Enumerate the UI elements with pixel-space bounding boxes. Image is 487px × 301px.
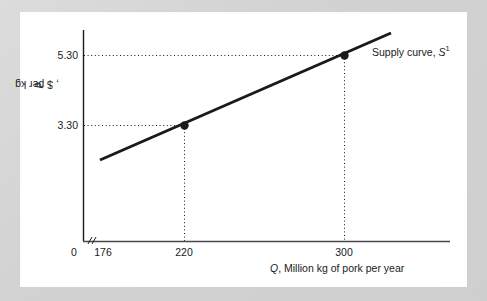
supply-curve-line[interactable] — [100, 33, 391, 160]
x-tick-label-176: 176 — [83, 246, 123, 258]
x-tick-label-220: 220 — [164, 246, 204, 258]
supply-curve-label-text: Supply curve, — [372, 46, 439, 58]
x-axis-title-symbol: Q — [270, 262, 278, 274]
x-axis-title-rest: , Million kg of pork per year — [278, 262, 404, 274]
supply-curve-label-superscript: 1 — [446, 44, 450, 53]
y-tick-label-530: 5.30 — [44, 49, 78, 61]
supply-curve-label-symbol: S — [439, 46, 446, 58]
y-tick-label-330: 3.30 — [44, 119, 78, 131]
axis-break-icon — [88, 237, 96, 244]
plot-area: p, $ per kg 5.30 3.30 0 176 220 300 Q, M… — [0, 0, 487, 301]
y-axis-title-rest: , $ per kg — [15, 79, 59, 91]
figure-screenshot: p, $ per kg 5.30 3.30 0 176 220 300 Q, M… — [0, 0, 487, 301]
x-tick-label-300: 300 — [324, 246, 364, 258]
data-point-300-530[interactable] — [340, 51, 348, 59]
supply-curve-label: Supply curve, S1 — [372, 44, 450, 58]
data-point-220-330[interactable] — [180, 121, 188, 129]
x-axis-title: Q, Million kg of pork per year — [270, 262, 404, 274]
